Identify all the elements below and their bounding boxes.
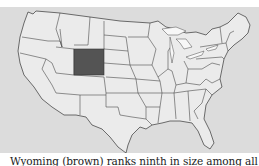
map-caption: Wyoming (brown) ranks ninth in size amon… — [0, 153, 259, 166]
us-map — [0, 7, 259, 153]
us-land — [18, 11, 250, 153]
us-map-graphic — [0, 7, 259, 153]
wyoming-state — [74, 49, 104, 75]
caption-text: Wyoming (brown) ranks ninth in size amon… — [10, 155, 259, 166]
